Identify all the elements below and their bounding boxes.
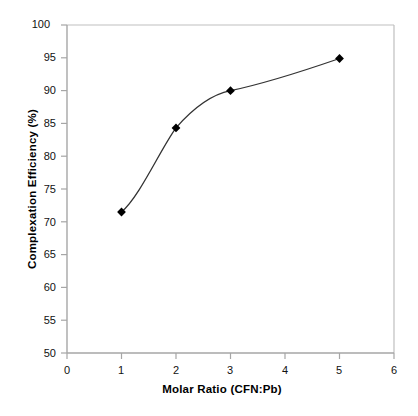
x-axis-title: Molar Ratio (CFN:Pb) — [122, 383, 322, 395]
x-tick-label-3: 3 — [219, 365, 241, 376]
x-axis-ticks — [67, 353, 394, 359]
x-tick-label-0: 0 — [56, 365, 78, 376]
y-tick-label-95: 95 — [28, 52, 56, 63]
data-point-marker — [226, 86, 235, 95]
x-tick-label-1: 1 — [110, 365, 132, 376]
x-tick-label-5: 5 — [328, 365, 350, 376]
data-line — [122, 59, 340, 213]
y-axis-title: Complexation Efficiency (%) — [26, 89, 38, 289]
y-tick-label-100: 100 — [22, 19, 50, 30]
y-axis-ticks — [61, 25, 67, 353]
plot-canvas — [0, 0, 418, 416]
y-tick-label-55: 55 — [28, 315, 56, 326]
chart-figure: 50 55 60 65 70 75 80 85 90 95 100 0 1 2 … — [0, 0, 418, 416]
data-markers — [117, 54, 344, 216]
x-tick-label-4: 4 — [274, 365, 296, 376]
x-tick-label-6: 6 — [383, 365, 405, 376]
data-point-marker — [335, 54, 344, 63]
plot-frame — [67, 25, 394, 353]
x-tick-label-2: 2 — [165, 365, 187, 376]
y-tick-label-50: 50 — [28, 348, 56, 359]
